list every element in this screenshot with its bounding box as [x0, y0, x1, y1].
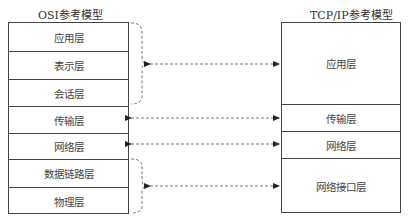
brace-lower — [131, 159, 147, 213]
mapping-arrows — [0, 0, 410, 222]
brace-upper — [131, 23, 147, 104]
